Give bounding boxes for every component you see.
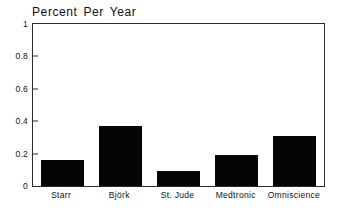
x-axis-tick-label: Björk xyxy=(109,190,130,200)
x-axis-tick-label: Starr xyxy=(51,190,71,200)
y-axis-tick-label: 1 xyxy=(23,19,33,29)
bars-group xyxy=(33,24,324,186)
y-axis-tick-label: 0.4 xyxy=(16,116,33,126)
x-axis-tick-label: Medtronic xyxy=(216,190,256,200)
x-axis-tick-label: Omniscience xyxy=(268,190,320,200)
bar xyxy=(41,160,84,186)
x-axis-tick-label: St. Jude xyxy=(161,190,195,200)
bar xyxy=(157,171,200,186)
y-axis-tick-label: 0.8 xyxy=(16,51,33,61)
bar xyxy=(215,155,258,186)
y-axis-tick-label: 0 xyxy=(23,181,33,191)
bar xyxy=(99,126,142,186)
bar xyxy=(273,136,316,186)
y-axis-tick-label: 0.6 xyxy=(16,84,33,94)
y-axis-tick-label: 0.2 xyxy=(16,149,33,159)
chart-title: Percent Per Year xyxy=(32,5,136,19)
bar-chart: Percent Per Year 00.20.40.60.81 StarrBjö… xyxy=(0,0,347,215)
plot-area: 00.20.40.60.81 xyxy=(32,23,325,187)
